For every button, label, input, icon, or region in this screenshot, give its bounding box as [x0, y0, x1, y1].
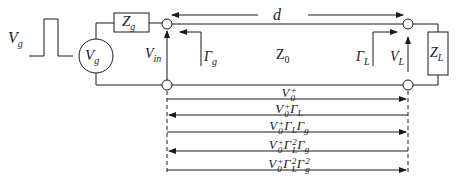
source-impedance-label: Zg [122, 14, 135, 29]
wave-label-4: V+0Γ2LΓg [269, 138, 309, 154]
load-terminal-top [403, 19, 413, 29]
wave-label-1: V+0 [281, 86, 296, 102]
load-voltage-label: VL [390, 50, 404, 64]
wave-label-5: V+0Γ2LΓ2g [268, 157, 309, 173]
pulse-waveform [29, 19, 73, 56]
wave-label-2: V+0ΓL [275, 102, 302, 118]
input-voltage-label: Vin [145, 47, 161, 61]
generator-reflection-label: Γg [204, 50, 217, 64]
line-impedance-label: Z0 [276, 48, 290, 62]
load-reflection-label: ΓL [356, 50, 370, 64]
load-impedance-label: ZL [430, 46, 443, 60]
pulse-label: Vg [8, 30, 23, 46]
wave-label-3: V+0ΓLΓg [269, 119, 308, 135]
input-terminal-bottom [162, 80, 172, 90]
load-terminal-bottom [403, 80, 413, 90]
circuit-drawing [0, 0, 470, 178]
length-label: d [273, 7, 281, 23]
generator-label: Vg [85, 48, 99, 63]
input-terminal-top [162, 19, 172, 29]
transmission-line-diagram: Vg Vg Zg d Z0 Vin Γg ΓL VL ZL V+0 V+0ΓL … [0, 0, 470, 178]
